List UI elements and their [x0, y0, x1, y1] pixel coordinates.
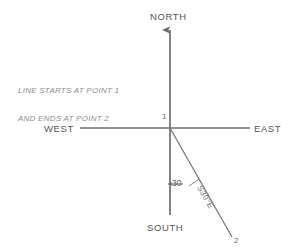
angle-leader-tick — [189, 179, 199, 186]
angle-value-label: 30 — [172, 178, 181, 188]
bearing-diagram-figure: NORTH EAST SOUTH WEST LINE STARTS AT POI… — [0, 0, 292, 252]
cardinal-label-east: EAST — [254, 123, 281, 134]
note-line-1: LINE STARTS AT POINT 1 — [18, 86, 119, 95]
point-label-2: 2 — [234, 236, 238, 245]
note-line-2: AND ENDS AT POINT 2 — [18, 114, 119, 123]
cardinal-label-north: NORTH — [150, 11, 187, 22]
cardinal-label-south: SOUTH — [147, 222, 183, 233]
point-label-1: 1 — [162, 112, 166, 121]
explanatory-note: LINE STARTS AT POINT 1 AND ENDS AT POINT… — [18, 67, 119, 143]
